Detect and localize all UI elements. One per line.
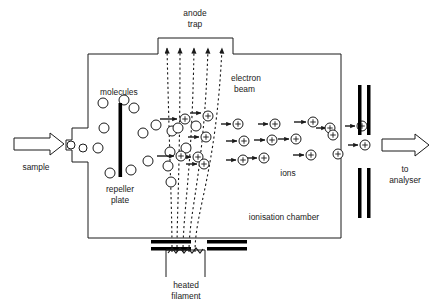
electron-beam-label: electron beam [231,73,261,94]
repeller-plate [119,103,123,177]
filament-bars [151,240,247,251]
plus-circle-icon [270,119,280,129]
open-circle-icon [93,143,103,153]
plus-circle-icon [308,117,318,127]
plus-circle-icon [201,132,211,142]
open-circle-icon [129,103,139,113]
open-circle-icon [163,161,173,171]
filament-bracket [166,250,205,277]
plus-circle-icon [360,140,370,150]
plus-circle-icon [199,159,209,169]
mass-spectrometer-diagram: anode trap electron beam molecules repel… [0,0,441,305]
plus-circle-icon [238,155,248,165]
open-circle-icon [67,141,75,149]
molecule-particles [67,95,201,187]
acceleration-plate [358,168,362,218]
anode-trap-label: anode trap [183,8,207,29]
open-circle-icon [138,128,148,138]
sample-label: sample [23,162,50,172]
heated-filament-label-line1: heated [173,280,199,290]
repeller-plate-label-line1: repeller [106,184,134,194]
to-analyser-label-line2: analyser [389,175,421,185]
sample-inlet-arrow: sample [14,133,64,172]
plus-circle-icon [267,135,277,145]
plus-circle-icon [328,130,338,140]
open-circle-icon [191,121,201,131]
heated-filament-label-line2: filament [171,291,201,301]
molecules-label: molecules [100,87,138,97]
open-circle-icon [99,123,109,133]
open-circle-icon [126,165,136,175]
ionisation-chamber-label: ionisation chamber [249,212,320,222]
open-circle-icon [79,144,87,152]
ions-label: ions [280,168,295,178]
acceleration-plate [358,85,362,135]
electron-beam-paths [167,48,222,252]
acceleration-plates [358,85,371,218]
plus-circle-icon [203,111,213,121]
plus-circle-icon [333,149,343,159]
filament-bar [207,240,247,244]
electron-beam-label-line2: beam [234,84,255,94]
anode-trap-label-line1: anode [183,8,207,18]
acceleration-plate [367,168,371,218]
to-analyser-label-line1: to [402,164,409,174]
electron-beam-path-2 [177,48,180,252]
anode-trap-label-line2: trap [188,19,203,29]
electron-beam-path-5 [195,48,222,252]
plus-circle-icon [291,134,301,144]
open-circle-icon [98,98,108,108]
open-circle-icon [143,156,153,166]
open-circle-icon [105,168,115,178]
plus-circle-icon [180,114,190,124]
filament-bar [151,240,191,244]
repeller-plate-label-line2: plate [111,195,130,205]
open-circle-icon [151,120,161,130]
heated-filament-label: heated filament [171,280,201,301]
to-analyser-arrow: to analyser [382,134,429,185]
block-arrow-right-icon [14,133,64,155]
plus-circle-icon [239,136,249,146]
plus-circle-icon [259,153,269,163]
open-circle-icon [173,123,183,133]
electron-beam-label-line1: electron [231,73,261,83]
block-arrow-right-icon [382,134,429,156]
repeller-plate-label: repeller plate [106,184,134,205]
plus-circle-icon [176,151,186,161]
filament-bar [207,247,247,251]
acceleration-plate [367,85,371,135]
plus-circle-icon [306,150,316,160]
heated-filament-assembly [166,248,205,277]
open-circle-icon [166,177,176,187]
plus-circle-icon [233,119,243,129]
diagram-canvas: anode trap electron beam molecules repel… [0,0,441,305]
